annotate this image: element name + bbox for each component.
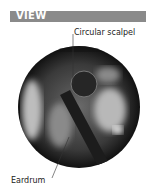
endoscopic-image <box>0 0 155 191</box>
